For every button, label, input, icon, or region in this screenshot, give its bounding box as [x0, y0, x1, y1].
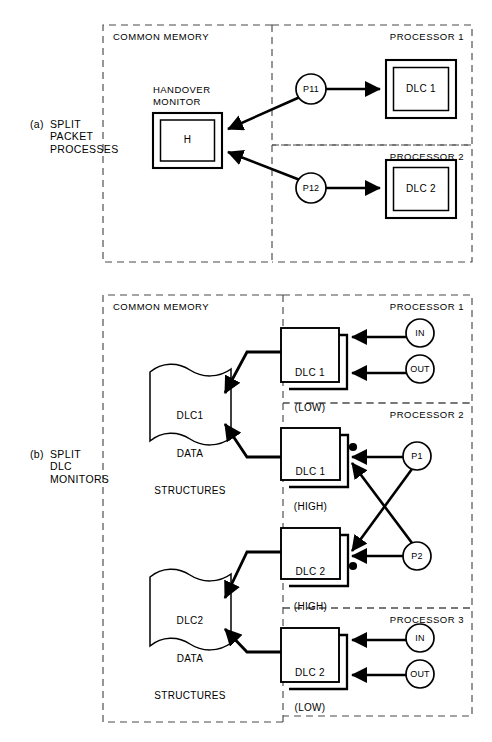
dlc2-high-line1: DLC 2: [281, 566, 340, 578]
dlc1-ds-line2: DATA: [148, 448, 232, 461]
panel-a-processor-1-label: PROCESSOR 1: [352, 31, 464, 42]
panel-a-caption-tag: (a): [30, 118, 44, 130]
panel-b-io-connectors-p1: [352, 337, 406, 373]
dlc2-ds-line1: DLC2: [148, 615, 232, 628]
panel-b-caption-body: SPLIT DLC MONITORS: [50, 448, 109, 485]
panel-b-caption: (b) SPLIT DLC MONITORS: [30, 448, 126, 494]
figure-canvas: (a) SPLIT PACKET PROCESSES COMMON MEMORY…: [0, 0, 492, 742]
process-node-p2-label: P2: [402, 551, 432, 562]
panel-b-processor-3-label: PROCESSOR 3: [352, 614, 464, 625]
dlc2-high-line2: (HIGH): [281, 601, 340, 613]
dlc1-ds-line1: DLC1: [148, 410, 232, 423]
process-node-p11-label: P11: [296, 84, 326, 95]
panel-a-dlc1-label: DLC 1: [393, 83, 449, 95]
panel-a-caption: (a) SPLIT PACKET PROCESSES: [30, 118, 126, 164]
dlc1-high-line2: (HIGH): [281, 501, 340, 513]
semaphore-dot-dlc2-high: [349, 562, 357, 570]
handover-monitor-title: HANDOVER MONITOR: [153, 84, 210, 109]
dlc2-low-line2: (LOW): [281, 702, 339, 714]
panel-a-common-memory-label: COMMON MEMORY: [113, 31, 209, 42]
process-node-p1-label: P1: [402, 451, 432, 462]
dlc2-ds-line3: STRUCTURES: [148, 690, 232, 703]
panel-a-connectors: [228, 89, 380, 188]
panel-b-caption-tag: (b): [30, 448, 44, 460]
panel-b-process-connectors: [352, 457, 412, 556]
dlc1-low-label: DLC 1 (LOW): [281, 343, 339, 437]
panel-a-caption-body: SPLIT PACKET PROCESSES: [50, 118, 119, 155]
semaphore-dot-dlc1-high: [349, 443, 357, 451]
dlc1-ds-line3: STRUCTURES: [148, 485, 232, 498]
io-node-out-p1-label: OUT: [405, 364, 435, 375]
panel-a-dlc2-label: DLC 2: [393, 183, 449, 195]
panel-b-io-connectors-p3: [352, 640, 406, 675]
panel-b-ds-connectors: [225, 352, 281, 652]
dlc2-high-label: DLC 2 (HIGH): [281, 542, 340, 636]
handover-monitor-box-label: H: [160, 134, 215, 146]
dlc2-low-label: DLC 2 (LOW): [281, 643, 339, 737]
panel-a-processor-2-label: PROCESSOR 2: [352, 151, 464, 162]
dlc1-high-label: DLC 1 (HIGH): [281, 442, 340, 536]
dlc1-high-line1: DLC 1: [281, 466, 340, 478]
panel-b-common-memory-label: COMMON MEMORY: [113, 301, 209, 312]
dlc2-ds-line2: DATA: [148, 653, 232, 666]
io-node-in-p1-label: IN: [405, 328, 435, 339]
panel-b-processor-1-label: PROCESSOR 1: [352, 301, 464, 312]
dlc1-low-line2: (LOW): [281, 402, 339, 414]
dlc1-data-structures-label: DLC1 DATA STRUCTURES: [148, 385, 232, 523]
dlc2-low-line1: DLC 2: [281, 667, 339, 679]
process-node-p12-label: P12: [296, 183, 326, 194]
panel-b-processor-2-label: PROCESSOR 2: [352, 409, 464, 420]
io-node-out-p3-label: OUT: [405, 669, 435, 680]
dlc1-low-line1: DLC 1: [281, 367, 339, 379]
dlc2-data-structures-label: DLC2 DATA STRUCTURES: [148, 590, 232, 728]
io-node-in-p3-label: IN: [405, 633, 435, 644]
